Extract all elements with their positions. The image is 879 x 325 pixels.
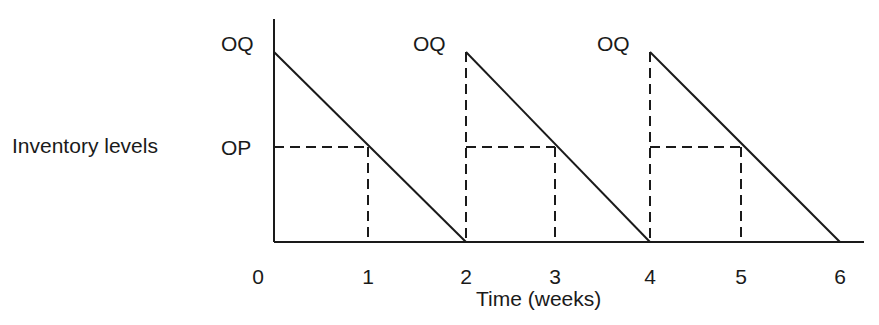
op-label: OP <box>221 136 251 159</box>
x-tick-label: 6 <box>834 265 846 288</box>
oq-label: OQ <box>413 32 446 55</box>
x-tick-label: 3 <box>549 265 561 288</box>
oq-label: OQ <box>221 32 254 55</box>
x-tick-label: 4 <box>644 265 656 288</box>
y-axis-label: Inventory levels <box>12 134 158 157</box>
x-tick-label: 2 <box>460 265 472 288</box>
depletion-line <box>274 52 466 242</box>
depletion-line <box>650 52 840 242</box>
x-axis-label: Time (weeks) <box>476 287 601 310</box>
inventory-sawtooth-chart: Inventory levels Time (weeks) OQOPOQOQ01… <box>0 0 879 325</box>
x-tick-label: 1 <box>362 265 374 288</box>
oq-label: OQ <box>597 32 630 55</box>
depletion-line <box>466 52 650 242</box>
x-tick-label: 0 <box>252 265 264 288</box>
x-tick-label: 5 <box>735 265 747 288</box>
